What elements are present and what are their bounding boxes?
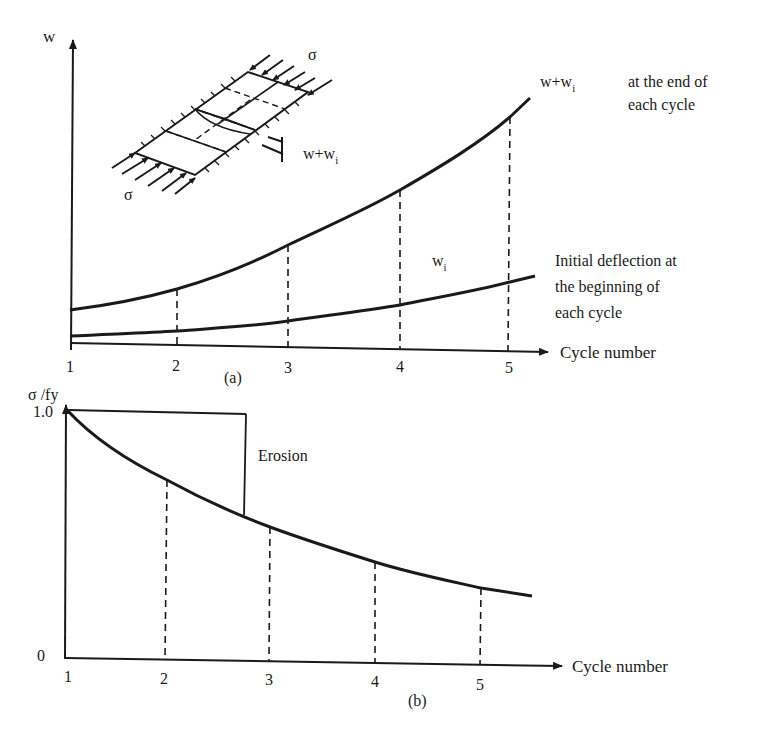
tick-4: 4 — [371, 673, 379, 690]
tick-2: 2 — [160, 670, 168, 687]
tick-2: 2 — [172, 357, 180, 374]
note-end-of-cycle-2: each cycle — [628, 96, 695, 114]
note-initial-deflection-3: each cycle — [555, 304, 622, 322]
panel-a-x-label: Cycle number — [560, 343, 656, 362]
plate-inset — [112, 55, 332, 194]
panel-b-x-ticks: 1 2 3 4 5 — [64, 668, 484, 693]
curve-wi — [70, 276, 535, 336]
panel-b-caption: (b) — [408, 692, 427, 710]
panel-a-x-axis — [70, 343, 548, 352]
label-w-plus-wi: w+wi — [540, 73, 575, 94]
inset-stress-top: σ — [308, 46, 317, 63]
panel-b: σ /fy 1.0 0 Cycle number 1 2 3 4 5 Erosi… — [28, 386, 668, 710]
tick-5: 5 — [476, 676, 484, 693]
panel-b-y-axis — [65, 405, 66, 659]
panel-b-x-label: Cycle number — [572, 657, 668, 676]
tick-3: 3 — [265, 671, 273, 688]
panel-a: w Cycle number 1 2 3 4 5 w+wi at the end… — [43, 27, 708, 387]
inset-deflection-label: w+wi — [303, 145, 338, 166]
curve-w-plus-wi — [70, 98, 530, 310]
erosion-bracket — [68, 410, 246, 515]
panel-b-y-tick-bottom: 0 — [37, 647, 45, 664]
note-initial-deflection-1: Initial deflection at — [555, 252, 677, 269]
panel-b-y-label: σ /fy — [28, 386, 58, 404]
tick-4: 4 — [396, 358, 404, 375]
panel-b-x-axis — [65, 658, 562, 666]
panel-a-x-ticks: 1 2 3 4 5 — [66, 357, 513, 376]
panel-a-y-axis — [71, 40, 73, 350]
panel-a-y-label: w — [43, 27, 56, 46]
tick-1: 1 — [66, 358, 74, 375]
note-initial-deflection-2: the beginning of — [555, 278, 661, 296]
panel-b-y-tick-top: 1.0 — [33, 403, 53, 420]
curve-stress-ratio — [68, 411, 532, 596]
panel-a-caption: (a) — [224, 369, 242, 387]
inset-stress-bottom: σ — [124, 186, 133, 203]
tick-3: 3 — [284, 359, 292, 376]
tick-1: 1 — [64, 668, 72, 685]
erosion-label: Erosion — [258, 447, 308, 464]
tick-5: 5 — [505, 359, 513, 376]
note-end-of-cycle-1: at the end of — [628, 73, 708, 90]
label-wi: wi — [432, 252, 447, 273]
panel-b-dashed-guides — [165, 480, 481, 665]
figure-canvas: w Cycle number 1 2 3 4 5 w+wi at the end… — [0, 0, 767, 735]
